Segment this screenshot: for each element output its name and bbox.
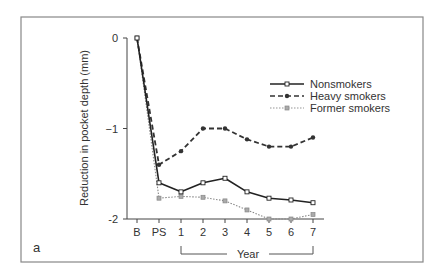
marker-gray-square-icon	[311, 212, 315, 216]
marker-filled-dot-icon	[285, 94, 289, 98]
marker-filled-dot-icon	[311, 135, 315, 139]
marker-open-square-icon	[289, 198, 293, 202]
x-tick-label: 2	[200, 226, 206, 238]
marker-open-square-icon	[245, 190, 249, 194]
marker-open-square-icon	[285, 82, 289, 86]
marker-open-square-icon	[179, 190, 183, 194]
marker-filled-dot-icon	[201, 126, 205, 130]
marker-open-square-icon	[135, 36, 139, 40]
marker-gray-square-icon	[245, 208, 249, 212]
chart: 0−1-2BPS1234567Year NonsmokersHeavy smok…	[0, 0, 441, 280]
legend-label: Former smokers	[310, 102, 391, 114]
marker-gray-square-icon	[201, 195, 205, 199]
legend-label: Heavy smokers	[310, 90, 386, 102]
marker-filled-dot-icon	[289, 144, 293, 148]
marker-open-square-icon	[267, 196, 271, 200]
marker-filled-dot-icon	[245, 137, 249, 141]
x-tick-label: 3	[222, 226, 228, 238]
x-tick-label: 4	[244, 226, 250, 238]
marker-filled-dot-icon	[157, 163, 161, 167]
marker-gray-square-icon	[157, 196, 161, 200]
marker-open-square-icon	[201, 181, 205, 185]
marker-filled-dot-icon	[223, 126, 227, 130]
y-tick-label: 0	[112, 32, 118, 44]
marker-gray-square-icon	[285, 106, 289, 110]
marker-filled-dot-icon	[267, 144, 271, 148]
marker-open-square-icon	[311, 201, 315, 205]
x-tick-label: 1	[178, 226, 184, 238]
marker-open-square-icon	[223, 176, 227, 180]
marker-gray-square-icon	[223, 199, 227, 203]
marker-open-square-icon	[157, 181, 161, 185]
marker-gray-square-icon	[289, 217, 293, 221]
y-tick-label: -2	[108, 213, 118, 225]
x-axis-title: Year	[237, 248, 260, 260]
marker-gray-square-icon	[267, 217, 271, 221]
x-tick-label: 5	[266, 226, 272, 238]
y-axis-title: Reduction in pocket depth (mm)	[78, 50, 90, 206]
legend-label: Nonsmokers	[310, 78, 372, 90]
x-tick-label: 7	[310, 226, 316, 238]
marker-filled-dot-icon	[179, 149, 183, 153]
x-tick-label: PS	[152, 226, 167, 238]
panel-label: a	[33, 240, 41, 255]
x-tick-label: B	[133, 226, 140, 238]
x-tick-label: 6	[288, 226, 294, 238]
y-tick-label: −1	[105, 123, 118, 135]
marker-gray-square-icon	[179, 194, 183, 198]
